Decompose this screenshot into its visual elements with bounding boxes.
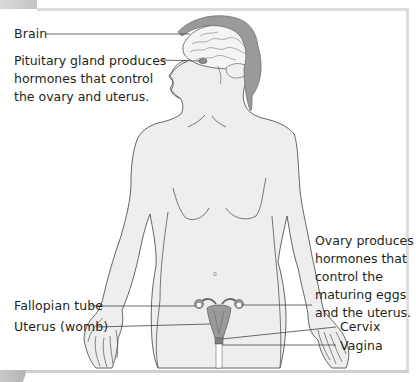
label-ovary-line-1: Ovary produces [315, 232, 414, 250]
label-pituitary-line-1: Pituitary gland produces [14, 52, 166, 70]
label-ovary-line-4: maturing eggs [315, 286, 414, 304]
ovary-right-inner [237, 303, 242, 308]
label-ovary-line-2: hormones that [315, 250, 414, 268]
cervix-shape [215, 338, 223, 344]
label-cervix: Cervix [340, 318, 380, 336]
label-ovary-line-3: control the [315, 268, 414, 286]
vagina-shape [216, 344, 222, 368]
label-vagina: Vagina [340, 337, 383, 355]
label-uterus: Uterus (womb) [14, 318, 108, 336]
label-brain: Brain [14, 25, 47, 43]
label-fallopian-tube: Fallopian tube [14, 297, 103, 315]
pituitary-gland [199, 58, 207, 63]
label-pituitary-line-2: hormones that control [14, 70, 166, 88]
label-pituitary-line-3: the ovary and uterus. [14, 88, 166, 106]
label-ovary: Ovary produces hormones that control the… [315, 232, 414, 322]
ovary-left-inner [197, 303, 202, 308]
label-pituitary: Pituitary gland produces hormones that c… [14, 52, 166, 106]
